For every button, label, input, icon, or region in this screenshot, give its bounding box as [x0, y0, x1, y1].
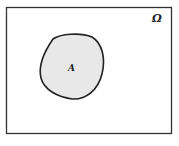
set-a-label: A	[67, 63, 75, 73]
universe-label: Ω	[151, 12, 162, 25]
venn-diagram: Ω A	[0, 0, 179, 146]
